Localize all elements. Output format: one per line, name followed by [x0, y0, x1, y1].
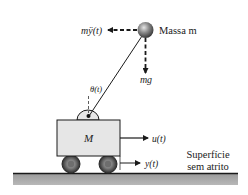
wheel-right: [99, 155, 117, 173]
ground-surface: [13, 174, 238, 185]
surface-label-line1: Superfície: [186, 149, 229, 160]
inverted-pendulum-diagram: Superfície sem atrito M θ(t) mÿ(t) mg Ma…: [0, 0, 248, 195]
position-label: y(t): [144, 159, 158, 170]
gravity-force-label: mg: [140, 74, 152, 85]
cart-mass-label: M: [83, 132, 94, 144]
pendulum-rod: [89, 36, 142, 116]
pendulum-mass-label: Massa m: [159, 25, 197, 36]
pendulum-mass-ball: [138, 22, 154, 38]
angle-label: θ(t): [90, 84, 102, 94]
inertial-force-label: mÿ(t): [81, 25, 103, 37]
ground: [13, 174, 238, 186]
input-force-label: u(t): [152, 134, 166, 145]
wheel-left: [62, 155, 80, 173]
surface-label-line2: sem atrito: [187, 161, 229, 172]
